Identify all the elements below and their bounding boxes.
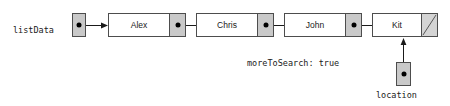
pointer-dot-icon bbox=[175, 23, 180, 28]
list-node: Alex bbox=[108, 13, 186, 37]
pointer-dot-icon bbox=[263, 23, 268, 28]
node-value-label: Kit bbox=[392, 21, 402, 30]
node-value-label: John bbox=[306, 21, 324, 30]
node-link-cell bbox=[258, 13, 274, 37]
node-value-label: Chris bbox=[217, 21, 237, 30]
more-to-search-annotation: moreToSearch: true bbox=[247, 58, 339, 68]
node-null-link-cell bbox=[422, 13, 438, 37]
list-node: Chris bbox=[196, 13, 274, 37]
arrow-location-to-kit bbox=[400, 38, 407, 64]
node-data-cell: Alex bbox=[108, 13, 170, 37]
node-value-label: Alex bbox=[131, 21, 148, 30]
list-node: John bbox=[284, 13, 362, 37]
node-link-cell bbox=[170, 13, 186, 37]
pointer-dot-icon bbox=[77, 23, 82, 28]
node-data-cell: John bbox=[284, 13, 346, 37]
arrow-listdata-to-alex bbox=[86, 22, 108, 29]
head-pointer-label: listData bbox=[13, 25, 54, 35]
linked-list-diagram: listData Alex Chris bbox=[0, 0, 450, 106]
node-data-cell: Kit bbox=[372, 13, 422, 37]
location-pointer-label: location bbox=[376, 90, 417, 100]
node-data-cell: Chris bbox=[196, 13, 258, 37]
pointer-dot-icon bbox=[401, 72, 406, 77]
location-pointer-cell bbox=[396, 62, 411, 86]
node-link-cell bbox=[346, 13, 362, 37]
pointer-dot-icon bbox=[351, 23, 356, 28]
list-node: Kit bbox=[372, 13, 438, 37]
head-pointer-cell bbox=[72, 13, 86, 37]
null-pointer-slash-icon bbox=[422, 14, 437, 36]
